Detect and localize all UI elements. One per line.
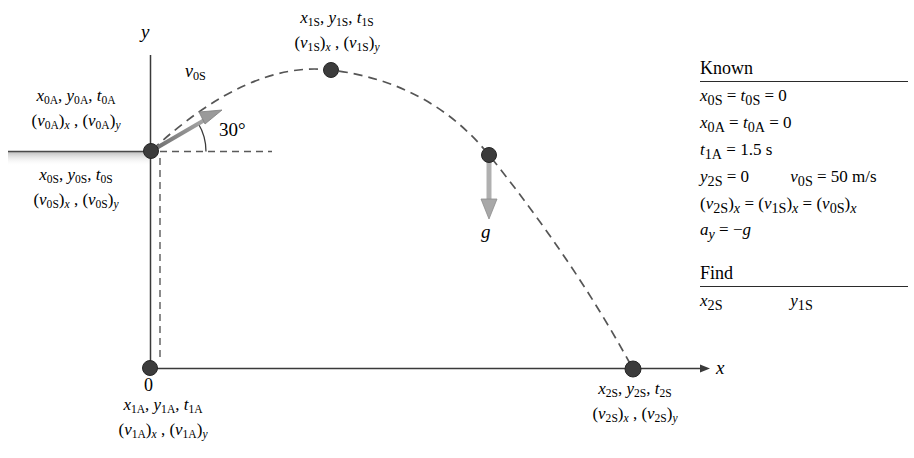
label-launch-below-line2: (v0S)x , (v0S)y bbox=[10, 190, 142, 215]
label-apex: x1S, y1S, t1S (v1S)x , (v1S)y bbox=[262, 8, 412, 57]
known-find-panel: Known x0S = t0S = 0 x0A = t0A = 0 t1A = … bbox=[700, 58, 908, 317]
launch-point-dot bbox=[144, 144, 159, 159]
panel-spacer bbox=[700, 246, 908, 263]
label-launch-below: x0S, y0S, t0S (v0S)x , (v0S)y bbox=[10, 165, 142, 214]
label-launch-above: x0A, y0A, t0A (v0A)x , (v0A)y bbox=[10, 86, 142, 135]
label-launch-below-line1: x0S, y0S, t0S bbox=[10, 165, 142, 190]
find-items: x2S y1S bbox=[700, 290, 908, 317]
known-line-2: x0A = t0A = 0 bbox=[700, 112, 908, 139]
known-t1A-value: 1.5 s bbox=[740, 140, 772, 159]
label-landing-line2: (v2S)x , (v2S)y bbox=[560, 404, 710, 429]
landing-point-dot bbox=[625, 361, 641, 377]
launch-angle-label: 30° bbox=[219, 120, 246, 140]
label-origin-below-line2: (v1A)x , (v1A)y bbox=[88, 420, 238, 445]
trajectory-curve bbox=[152, 69, 633, 369]
known-line-4: y2S = 0 v0S = 50 m/s bbox=[700, 166, 908, 193]
figure-canvas: y x 0 30° v0S g x0A, y0A, t0A (v0A)x , (… bbox=[0, 0, 914, 458]
known-heading-rule bbox=[700, 81, 908, 82]
label-landing-line1: x2S, y2S, t2S bbox=[560, 379, 710, 404]
known-v0S-value: 50 m/s bbox=[831, 167, 877, 186]
apex-point-dot bbox=[324, 63, 339, 78]
known-heading: Known bbox=[700, 58, 908, 81]
initial-velocity-arrow-shaft bbox=[153, 118, 208, 150]
find-heading-rule bbox=[700, 286, 908, 287]
label-apex-line2: (v1S)x , (v1S)y bbox=[262, 33, 412, 58]
label-apex-line1: x1S, y1S, t1S bbox=[262, 8, 412, 33]
gravity-point-dot bbox=[482, 148, 497, 163]
label-origin-below-line1: x1A, y1A, t1A bbox=[88, 395, 238, 420]
x-axis-label: x bbox=[716, 358, 724, 378]
ground-shading bbox=[8, 152, 151, 166]
label-landing: x2S, y2S, t2S (v2S)x , (v2S)y bbox=[560, 379, 710, 428]
label-origin-below: x1A, y1A, t1A (v1A)x , (v1A)y bbox=[88, 395, 238, 444]
known-line-3: t1A = 1.5 s bbox=[700, 139, 908, 166]
known-line-5: (v2S)x = (v1S)x = (v0S)x bbox=[700, 193, 908, 220]
known-y2S-value: 0 bbox=[741, 167, 750, 186]
gravity-label: g bbox=[481, 222, 491, 242]
x-axis-arrowhead bbox=[700, 365, 710, 373]
known-line-1: x0S = t0S = 0 bbox=[700, 85, 908, 112]
y-axis-label: y bbox=[141, 22, 149, 42]
angle-arc bbox=[198, 123, 206, 152]
find-heading: Find bbox=[700, 263, 908, 286]
find-item-0: x2S bbox=[700, 290, 786, 317]
gravity-arrowhead bbox=[481, 199, 497, 219]
initial-velocity-label: v0S bbox=[185, 61, 206, 86]
find-item-1: y1S bbox=[790, 291, 813, 310]
label-launch-above-line2: (v0A)x , (v0A)y bbox=[10, 111, 142, 136]
label-launch-above-line1: x0A, y0A, t0A bbox=[10, 86, 142, 111]
origin-point-dot bbox=[143, 361, 158, 376]
origin-label: 0 bbox=[144, 375, 153, 395]
known-line-6: ay = −g bbox=[700, 219, 908, 246]
